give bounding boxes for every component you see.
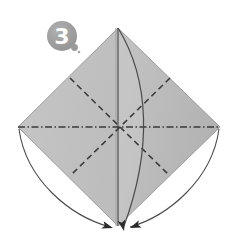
- arrowhead-right-to-bottom: [129, 220, 142, 231]
- step-number-badge: 3: [47, 21, 80, 53]
- step-badge-tail-dot: [78, 51, 81, 54]
- origami-diagram-canvas: 3: [0, 0, 234, 244]
- step-badge-tail: [71, 44, 78, 51]
- step-badge-number: 3: [54, 24, 69, 49]
- origami-diagram-figure: 3: [0, 0, 234, 244]
- arrowhead-left-to-bottom: [101, 221, 114, 232]
